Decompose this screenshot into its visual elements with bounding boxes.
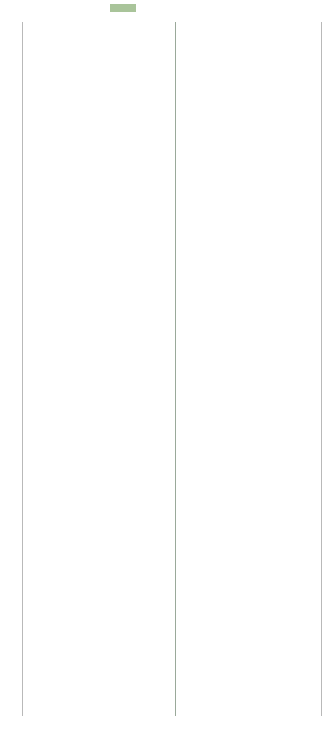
zero-axis-line [175, 22, 176, 716]
chart-plot-area [0, 18, 333, 718]
plot-right-border [321, 22, 322, 716]
axis-labels [0, 720, 333, 734]
legend-reference-swatch [110, 4, 136, 12]
chart-legend [0, 0, 333, 16]
plot-left-border [22, 22, 23, 716]
